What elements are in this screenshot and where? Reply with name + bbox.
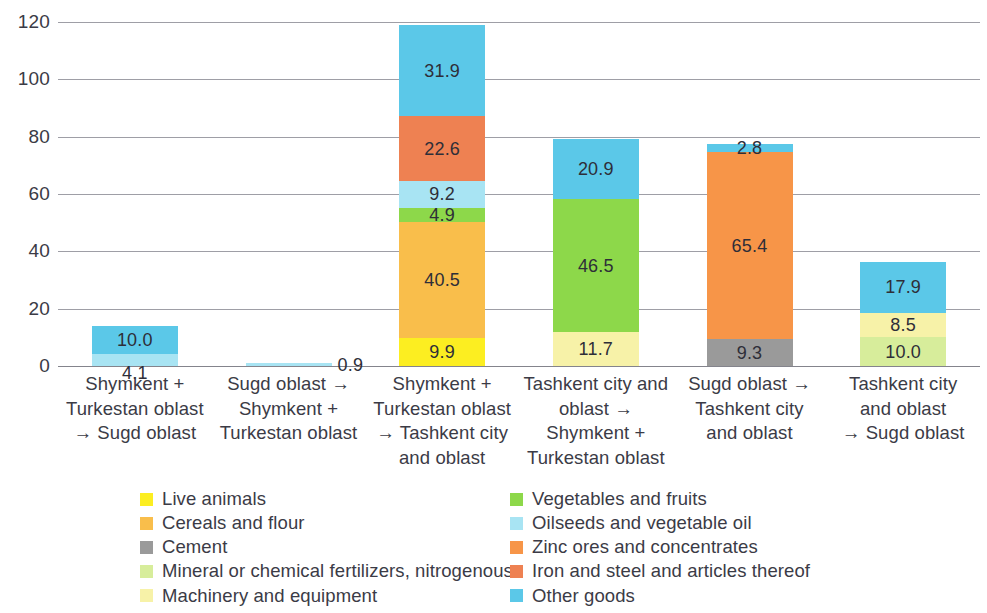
bar-column: 4.110.0 [92, 326, 178, 366]
legend-item[interactable]: Other goods [510, 584, 810, 608]
legend-item[interactable]: Live animals [140, 487, 513, 511]
gridline [58, 22, 980, 23]
gridline [58, 309, 980, 310]
bar-segment: 40.5 [399, 222, 485, 338]
bar-segment: 10.0 [860, 337, 946, 366]
gridline [58, 194, 980, 195]
legend-column-right: Vegetables and fruitsOilseeds and vegeta… [510, 487, 810, 608]
x-axis-label-line: and oblast [673, 421, 827, 446]
legend-item-label: Oilseeds and vegetable oil [532, 514, 752, 533]
x-axis-label-line: → Sugd oblast [58, 421, 212, 446]
legend-item[interactable]: Machinery and equipment [140, 584, 513, 608]
bar-segment: 10.0 [92, 326, 178, 355]
bar-segment: 22.6 [399, 116, 485, 181]
axis-baseline [58, 366, 980, 367]
legend-column-left: Live animalsCereals and flourCementMiner… [140, 487, 513, 608]
legend-item-label: Vegetables and fruits [532, 490, 707, 509]
bar-value-label: 17.9 [885, 278, 921, 296]
legend-color-swatch-icon [510, 493, 523, 506]
x-axis-label-line: Turkestan oblast [58, 397, 212, 422]
y-axis: 120100806040200 [0, 22, 50, 366]
plot-area: 4.110.00.99.940.54.99.222.631.911.746.52… [58, 22, 980, 366]
x-axis-category-label: Shymkent +Turkestan oblast→ Sugd oblast [58, 372, 212, 446]
x-axis-label-line: Shymkent + [519, 421, 673, 446]
legend-item-label: Mineral or chemical fertilizers, nitroge… [162, 562, 513, 581]
bar-value-label: 65.4 [732, 237, 768, 255]
legend-color-swatch-icon [140, 589, 153, 602]
bar-segment: 2.8 [707, 144, 793, 152]
legend-color-swatch-icon [510, 589, 523, 602]
legend-item[interactable]: Cereals and flour [140, 511, 513, 535]
x-axis-label-line: Tashkent city and [519, 372, 673, 397]
legend-item[interactable]: Mineral or chemical fertilizers, nitroge… [140, 560, 513, 584]
legend-color-swatch-icon [140, 565, 153, 578]
x-axis-label-line: → Sugd oblast [826, 421, 980, 446]
stacked-bar-chart: 120100806040200 4.110.00.99.940.54.99.22… [0, 0, 987, 613]
bar-value-label: 9.2 [429, 185, 455, 203]
legend-item[interactable]: Iron and steel and articles thereof [510, 560, 810, 584]
bar-segment: 20.9 [553, 139, 639, 199]
legend-color-swatch-icon [140, 493, 153, 506]
legend-item[interactable]: Cement [140, 535, 513, 559]
bar-value-label: 10.0 [885, 343, 921, 361]
bar-value-label: 40.5 [424, 271, 460, 289]
x-axis-category-label: Sugd oblast →Tashkent cityand oblast [673, 372, 827, 446]
x-axis-label-line: Sugd oblast → [673, 372, 827, 397]
bar-segment: 11.7 [553, 332, 639, 366]
bar-segment: 4.1 [92, 354, 178, 366]
legend-color-swatch-icon [510, 541, 523, 554]
bar-segment: 46.5 [553, 199, 639, 332]
bar-value-label: 0.9 [338, 356, 364, 374]
bar-value-label: 31.9 [424, 62, 460, 80]
x-axis-label-line: Turkestan oblast [365, 397, 519, 422]
legend-item-label: Zinc ores and concentrates [532, 538, 758, 557]
legend-color-swatch-icon [510, 565, 523, 578]
x-axis-category-label: Tashkent cityand oblast→ Sugd oblast [826, 372, 980, 446]
x-axis-label-line: Turkestan oblast [212, 421, 366, 446]
legend-item[interactable]: Zinc ores and concentrates [510, 535, 810, 559]
bar-value-label: 46.5 [578, 257, 614, 275]
legend-item[interactable]: Oilseeds and vegetable oil [510, 511, 810, 535]
y-axis-tick-label: 120 [6, 11, 50, 33]
bar-segment: 9.2 [399, 181, 485, 207]
bar-segment: 31.9 [399, 25, 485, 116]
bar-segment: 0.9 [246, 363, 332, 366]
x-axis-label-line: Shymkent + [212, 397, 366, 422]
x-axis-label-line: Turkestan oblast [519, 446, 673, 471]
y-axis-tick-label: 20 [6, 298, 50, 320]
gridline [58, 137, 980, 138]
bar-column: 9.365.42.8 [707, 144, 793, 366]
bar-column: 0.9 [246, 363, 332, 366]
legend-item-label: Live animals [162, 490, 266, 509]
bar-segment: 8.5 [860, 313, 946, 337]
x-axis-label-line: Shymkent + [365, 372, 519, 397]
legend-item[interactable]: Vegetables and fruits [510, 487, 810, 511]
y-axis-tick-label: 100 [6, 68, 50, 90]
x-axis-label-line: Sugd oblast → [212, 372, 366, 397]
x-axis-label-line: Tashkent city [673, 397, 827, 422]
gridline [58, 79, 980, 80]
x-axis-label-line: Tashkent city [826, 372, 980, 397]
chart-legend: Live animalsCereals and flourCementMiner… [0, 487, 987, 613]
legend-item-label: Cement [162, 538, 227, 557]
y-axis-tick-label: 80 [6, 126, 50, 148]
bar-segment: 9.9 [399, 338, 485, 366]
gridline [58, 251, 980, 252]
bar-column: 10.08.517.9 [860, 262, 946, 366]
x-axis-label-line: and oblast [826, 397, 980, 422]
x-axis-category-label: Sugd oblast →Shymkent +Turkestan oblast [212, 372, 366, 446]
legend-color-swatch-icon [510, 517, 523, 530]
x-axis-label-line: → Tashkent city [365, 421, 519, 446]
bar-value-label: 22.6 [424, 140, 460, 158]
y-axis-tick-label: 60 [6, 183, 50, 205]
bar-segment: 65.4 [707, 152, 793, 339]
x-axis-category-label: Tashkent city andoblast →Shymkent +Turke… [519, 372, 673, 470]
bar-segment: 17.9 [860, 262, 946, 313]
bar-value-label: 10.0 [117, 331, 153, 349]
x-axis-label-line: Shymkent + [58, 372, 212, 397]
bar-segment: 9.3 [707, 339, 793, 366]
legend-item-label: Iron and steel and articles thereof [532, 562, 810, 581]
bar-column: 9.940.54.99.222.631.9 [399, 25, 485, 366]
bar-value-label: 11.7 [579, 340, 614, 358]
bar-segment: 4.9 [399, 208, 485, 222]
